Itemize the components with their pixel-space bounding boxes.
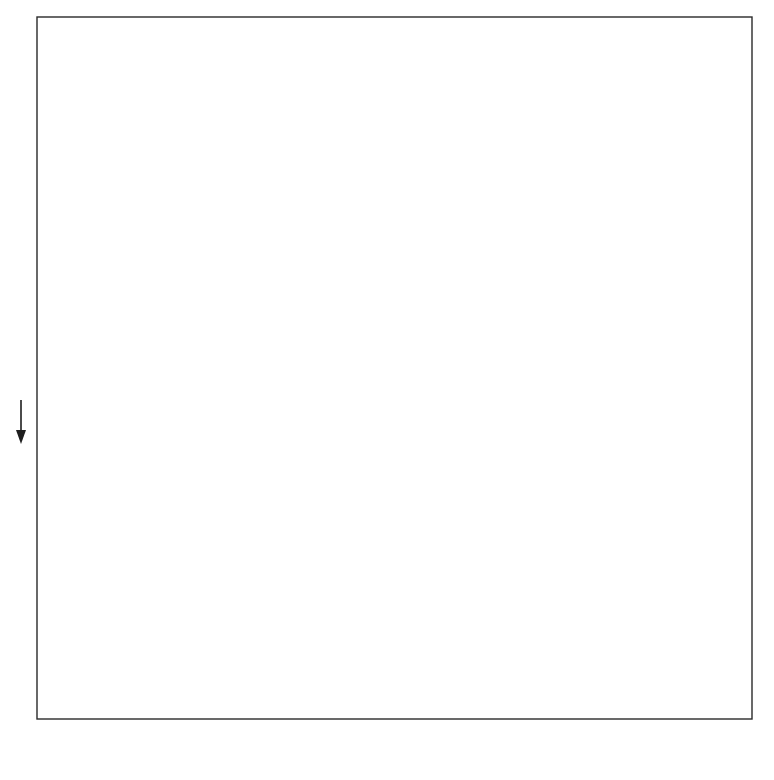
spectrum-figure xyxy=(0,0,774,780)
plot-frame xyxy=(37,17,752,719)
ylabel-arrow-icon xyxy=(16,400,26,444)
